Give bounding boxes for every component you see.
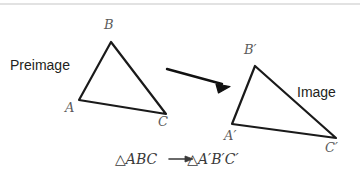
vertex-label-a-prime: A′ bbox=[224, 129, 236, 142]
triangle-symbol-prime-icon: △ bbox=[187, 151, 198, 167]
preimage-triangle bbox=[79, 42, 166, 114]
vertex-label-b-prime: B′ bbox=[244, 43, 257, 56]
geometry-figure: Preimage Image B A C B′ A′ C′ △ABC△A′B′C… bbox=[0, 0, 360, 181]
vertex-label-c-prime: C′ bbox=[325, 141, 338, 154]
transformation-arrow bbox=[167, 69, 230, 93]
vertex-label-b: B bbox=[104, 18, 114, 31]
image-triangle bbox=[232, 66, 336, 138]
caption-left-name: ABC bbox=[126, 151, 157, 167]
triangle-symbol-icon: △ bbox=[115, 151, 126, 167]
preimage-label: Preimage bbox=[10, 58, 70, 72]
vertex-label-a: A bbox=[65, 101, 74, 114]
mapping-caption: △ABC△A′B′C′ bbox=[115, 152, 239, 166]
vertex-label-c: C bbox=[158, 115, 168, 128]
caption-right-name: A′B′C′ bbox=[198, 151, 239, 167]
image-label: Image bbox=[297, 85, 336, 99]
